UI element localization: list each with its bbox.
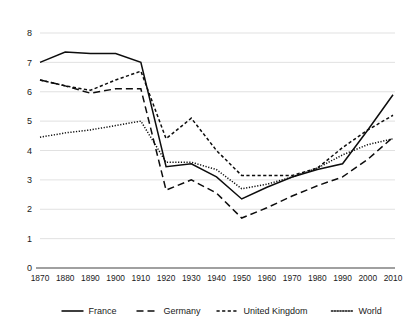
chart-legend: FranceGermanyUnited KingdomWorld (62, 306, 382, 316)
series-line-united-kingdom (40, 71, 393, 175)
y-tick-label: 3 (27, 175, 32, 185)
x-tick-label: 1920 (157, 273, 176, 283)
x-tick-label: 1960 (258, 273, 277, 283)
x-tick-label: 1990 (333, 273, 352, 283)
series-line-france (40, 52, 393, 199)
gridlines (40, 33, 395, 239)
x-tick-label: 1890 (81, 273, 100, 283)
legend-label-world: World (359, 306, 382, 316)
x-tick-label: 2000 (358, 273, 377, 283)
legend-label-united-kingdom: United Kingdom (244, 306, 308, 316)
y-tick-label: 2 (27, 204, 32, 214)
series-line-world (40, 121, 393, 189)
y-tick-label: 0 (27, 263, 32, 273)
y-tick-label: 5 (27, 116, 32, 126)
x-tick-label: 1950 (232, 273, 251, 283)
legend-label-germany: Germany (164, 306, 202, 316)
data-series-group (40, 52, 393, 218)
y-tick-label: 4 (27, 146, 32, 156)
x-tick-label: 2010 (384, 273, 403, 283)
x-tick-label: 1970 (283, 273, 302, 283)
x-tick-label: 1910 (132, 273, 151, 283)
legend-label-france: France (89, 306, 117, 316)
chart-container: 012345678 187018801890190019101920193019… (0, 0, 406, 324)
y-tick-label: 6 (27, 87, 32, 97)
y-axis-tick-labels: 012345678 (27, 28, 32, 273)
y-tick-label: 1 (27, 234, 32, 244)
x-tick-label: 1870 (31, 273, 50, 283)
x-tick-label: 1930 (182, 273, 201, 283)
x-tick-label: 1940 (207, 273, 226, 283)
x-tick-label: 1900 (106, 273, 125, 283)
x-tick-label: 1880 (56, 273, 75, 283)
line-chart: 012345678 187018801890190019101920193019… (0, 0, 406, 324)
y-tick-label: 8 (27, 28, 32, 38)
y-tick-label: 7 (27, 58, 32, 68)
x-tick-label: 1980 (308, 273, 327, 283)
x-axis-tick-labels: 1870188018901900191019201930194019501960… (31, 273, 403, 283)
